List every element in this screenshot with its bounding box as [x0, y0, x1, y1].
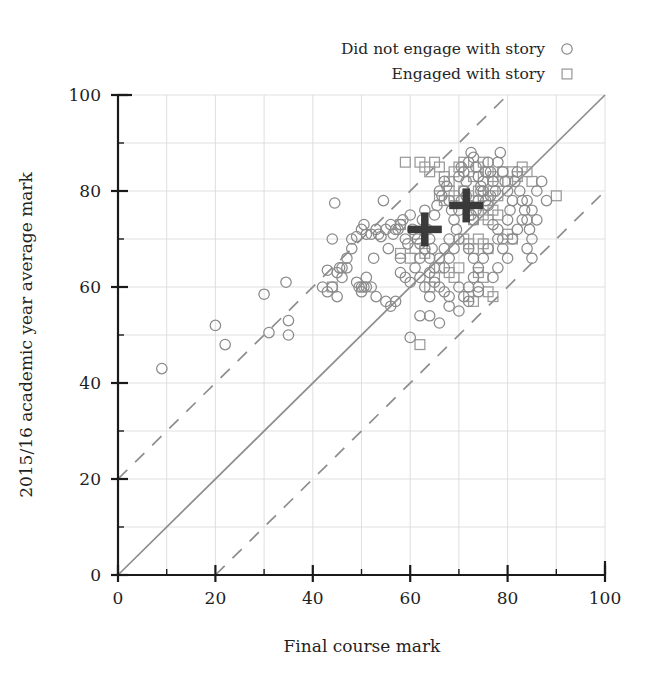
x-tick-label: 0 [113, 588, 124, 608]
x-tick-label: 60 [399, 588, 421, 608]
chart-figure: 020406080100020406080100 Did not engage … [0, 0, 656, 676]
x-axis-label: Final course mark [284, 636, 442, 656]
scatter-plot-svg: 020406080100020406080100 Did not engage … [0, 0, 656, 676]
centroid-engaged-mean-vertical [462, 188, 470, 222]
centroid-did-not-engage-mean-vertical [421, 212, 429, 246]
legend-label-did-not-engage: Did not engage with story [341, 40, 545, 58]
legend-label-engaged: Engaged with story [392, 65, 546, 83]
y-tick-label: 0 [90, 565, 101, 585]
x-tick-label: 100 [589, 588, 621, 608]
y-tick-label: 40 [79, 373, 101, 393]
y-tick-label: 80 [79, 181, 101, 201]
y-tick-label: 100 [69, 85, 101, 105]
y-tick-label: 60 [79, 277, 101, 297]
y-axis-label: 2015/16 academic year average mark [16, 171, 36, 497]
x-tick-label: 40 [302, 588, 324, 608]
x-tick-label: 80 [497, 588, 519, 608]
y-tick-label: 20 [79, 469, 101, 489]
x-tick-label: 20 [205, 588, 227, 608]
